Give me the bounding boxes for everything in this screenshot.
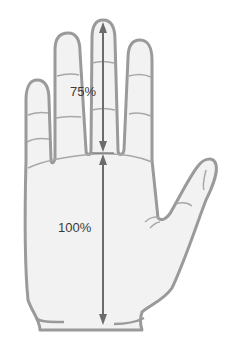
hand-diagram: [0, 0, 226, 338]
finger-ratio-label: 75%: [70, 84, 96, 99]
hand-outline: [25, 20, 216, 330]
palm-ratio-label: 100%: [58, 220, 91, 235]
